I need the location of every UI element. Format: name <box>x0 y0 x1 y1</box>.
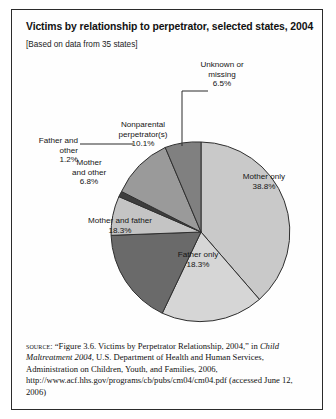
slice-label-father-only: Father only 18.3% <box>160 250 236 269</box>
slice-label-line: Father only <box>178 250 219 259</box>
slice-label-line: Mother only <box>243 172 285 181</box>
slice-value: 6.8% <box>80 177 98 186</box>
slice-value: 6.5% <box>213 79 231 88</box>
slice-label-mother-and-father: Mother and father 18.3% <box>72 216 168 235</box>
leader-line-unknown-or-missing <box>182 91 208 146</box>
slice-label-mother-and-other: Mother and other 6.8% <box>56 158 122 187</box>
slice-label-line: perpetrator(s) <box>118 130 167 139</box>
slice-label-line: other <box>60 146 78 155</box>
slice-label-mother-only: Mother only 38.8% <box>224 172 304 191</box>
source-text-part-1: “Figure 3.6. Victims by Perpetrator Rela… <box>53 341 260 351</box>
slice-label-line: Nonparental <box>121 120 165 129</box>
pie-chart-svg <box>12 54 322 332</box>
slice-label-line: Unknown or <box>200 60 243 69</box>
slice-label-line: Mother <box>76 158 101 167</box>
slice-value: 18.3% <box>109 226 132 235</box>
figure-subtitle: [Based on data from 35 states] <box>26 40 316 50</box>
pie-chart: Unknown or missing 6.5% Nonparental perp… <box>12 54 322 332</box>
slice-value: 10.1% <box>132 139 155 148</box>
slice-label-unknown-or-missing: Unknown or missing 6.5% <box>180 60 264 89</box>
slice-label-line: Father and <box>39 136 78 145</box>
slice-label-line: and other <box>72 168 106 177</box>
slice-value: 18.3% <box>187 260 210 269</box>
source-note: source: “Figure 3.6. Victims by Perpetra… <box>26 341 314 398</box>
page-title: Victims by relationship to perpetrator, … <box>26 21 316 33</box>
figure-panel: Victims by relationship to perpetrator, … <box>11 9 323 410</box>
slice-value: 38.8% <box>253 182 276 191</box>
slice-label-line: missing <box>208 70 235 79</box>
slice-label-line: Mother and father <box>88 216 152 225</box>
source-keyword: source: <box>26 342 53 351</box>
slice-label-nonparental-perpetrators: Nonparental perpetrator(s) 10.1% <box>101 120 185 149</box>
